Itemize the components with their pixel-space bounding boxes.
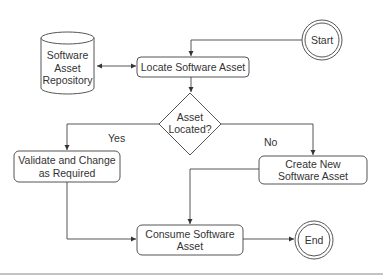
repository-label: Software Asset Repository xyxy=(41,46,94,90)
edge-start-to-locate xyxy=(191,40,302,56)
create-line2: Software Asset xyxy=(278,170,348,183)
consume-label: Consume Software Asset xyxy=(137,225,243,255)
repository-line3: Repository xyxy=(42,74,92,87)
create-line1: Create New xyxy=(285,158,340,171)
yes-label: Yes xyxy=(108,132,125,144)
start-label: Start xyxy=(302,30,342,50)
consume-line1: Consume Software xyxy=(145,228,234,241)
decision-line1: Asset xyxy=(177,111,203,124)
validate-line1: Validate and Change xyxy=(18,154,115,167)
consume-line2: Asset xyxy=(177,240,203,253)
no-label: No xyxy=(264,136,277,148)
create-label: Create New Software Asset xyxy=(259,156,367,184)
edge-validate-to-consume xyxy=(67,182,136,239)
repository-line2: Asset xyxy=(54,62,80,75)
edge-create-to-consume xyxy=(190,169,259,224)
locate-label: Locate Software Asset xyxy=(137,57,249,77)
repository-line1: Software xyxy=(47,49,88,62)
decision-label: Asset Located? xyxy=(159,108,221,138)
validate-line2: as Required xyxy=(39,167,96,180)
validate-label: Validate and Change as Required xyxy=(14,151,120,182)
end-label: End xyxy=(295,230,333,250)
decision-line2: Located? xyxy=(168,123,211,136)
